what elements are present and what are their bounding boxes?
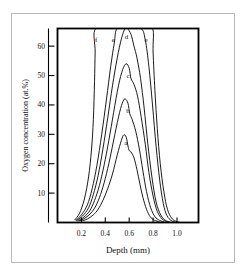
x-tick-label: 1.0 [165,229,189,238]
curve-label-c: c [127,72,130,80]
curve-label-d: d [125,33,129,41]
x-tick-label: 0.2 [69,229,93,238]
y-axis-ticks [49,46,55,193]
x-tick-label: 0.4 [93,229,117,238]
curve-label-a: a [124,139,127,147]
curve-label-f: f [95,36,97,44]
y-axis [49,29,55,223]
plot-border [58,29,199,223]
y-tick-label: 60 [20,42,45,51]
x-tick-label: 0.8 [141,229,165,238]
x-tick-label: 0.6 [117,229,141,238]
plot-frame [58,29,199,223]
x-axis-title: Depth (mm) [57,245,199,255]
figure-container: 102030405060 0.20.40.60.81.0 fedecba Oxy… [0,0,247,276]
curve-label-e: e [145,36,148,44]
curve-label-e: e [112,36,115,44]
y-axis-title: Oxygen concentration (at.%) [21,56,30,196]
curve-label-b: b [126,107,130,115]
